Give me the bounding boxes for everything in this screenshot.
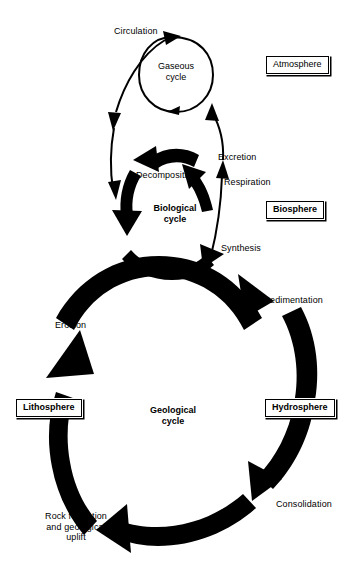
process-label-consolidation: Consolidation	[276, 499, 332, 510]
diagram-artwork	[0, 0, 362, 577]
process-label-erosion: Erosion	[55, 320, 86, 331]
process-label-synthesis: Synthesis	[221, 243, 261, 254]
process-label-decomposition: Decomposition	[136, 170, 197, 181]
biological-left-arrowhead	[112, 210, 142, 236]
process-label-circulation: Circulation	[114, 26, 158, 37]
geological-left-arc	[46, 330, 97, 535]
circulation-arrowhead-lower	[108, 180, 121, 200]
respiration-arrowhead-upper	[205, 103, 219, 121]
geological-top-arc	[56, 256, 274, 330]
cycle-diagram: Gaseous cycle Biological cycle Geologica…	[0, 0, 362, 577]
process-label-rock-formation: Rock formation and geological uplift	[28, 511, 124, 543]
sphere-label-lithosphere: Lithosphere	[16, 399, 82, 417]
sphere-label-atmosphere: Atmosphere	[266, 56, 329, 74]
process-label-respiration: Respiration	[224, 177, 271, 188]
geological-cycle-title: Geological cycle	[133, 405, 213, 426]
decomposition-arrowhead	[133, 146, 159, 172]
erosion-arrowhead	[46, 330, 94, 378]
process-label-sedimentation: Sedimentation	[264, 295, 323, 306]
gaseous-cycle-title: Gaseous cycle	[146, 61, 206, 82]
biological-cycle-title: Biological cycle	[140, 203, 210, 224]
sphere-label-biosphere: Biosphere	[266, 201, 324, 219]
process-label-excretion: Excretion	[218, 152, 256, 163]
sphere-label-hydrosphere: Hydrosphere	[265, 399, 335, 417]
